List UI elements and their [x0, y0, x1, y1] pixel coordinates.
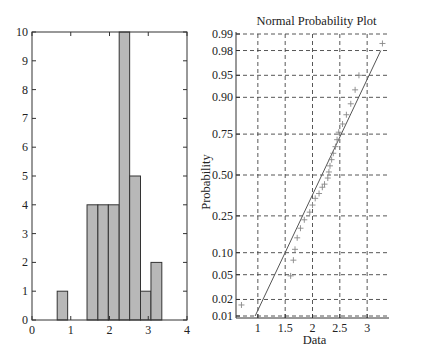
y-tick-label: 0.75 [212, 127, 233, 141]
x-tick-label: 0 [29, 323, 35, 337]
data-point-marker [288, 273, 294, 279]
data-point-marker [290, 257, 296, 263]
figure: 01234567891001234 Normal Probability Plo… [0, 0, 434, 362]
y-tick-label: 0.98 [212, 44, 233, 58]
y-tick-label: 5 [22, 169, 28, 183]
data-point-marker [326, 169, 332, 175]
y-tick-label: 9 [22, 54, 28, 68]
y-tick-label: 6 [22, 140, 28, 154]
y-tick-label: 3 [22, 227, 28, 241]
y-tick-label: 0.01 [212, 309, 233, 323]
y-tick-label: 0.99 [212, 27, 233, 41]
data-point-marker [325, 175, 331, 181]
y-tick-label: 2 [22, 255, 28, 269]
y-tick-label: 0.90 [212, 90, 233, 104]
histogram-bar [98, 205, 108, 320]
y-axis-title: Probability [199, 153, 213, 209]
y-tick-label: 0.05 [212, 268, 233, 282]
normal-probability-plot: Normal Probability Plot0.010.020.050.100… [199, 14, 389, 347]
data-point-marker [310, 202, 316, 208]
x-tick-label: 3 [364, 321, 370, 335]
y-tick-label: 7 [22, 111, 28, 125]
data-point-marker [292, 246, 298, 252]
y-tick-label: 0 [22, 313, 28, 327]
histogram-bar [130, 176, 141, 320]
y-tick-label: 10 [16, 25, 28, 39]
histogram-bar [108, 205, 119, 320]
y-tick-label: 1 [22, 284, 28, 298]
histogram-bar [151, 262, 162, 320]
histogram-bar [119, 32, 129, 320]
data-point-marker [379, 40, 385, 46]
y-tick-label: 0.10 [212, 246, 233, 260]
x-axis-title: Data [303, 333, 327, 347]
y-tick-label: 0.02 [212, 292, 233, 306]
data-point-marker [297, 225, 303, 231]
histogram-bar [57, 291, 67, 320]
x-tick-label: 2 [107, 323, 113, 337]
x-tick-label: 1 [255, 321, 261, 335]
y-tick-label: 8 [22, 83, 28, 97]
x-tick-label: 2.5 [332, 321, 347, 335]
x-tick-label: 1.5 [278, 321, 293, 335]
data-point-marker [327, 163, 333, 169]
y-tick-label: 0.50 [212, 168, 233, 182]
data-point-marker [294, 235, 300, 241]
data-point-marker [343, 112, 349, 118]
data-point-marker [332, 144, 338, 150]
y-tick-label: 4 [22, 198, 28, 212]
data-point-marker [329, 157, 335, 163]
y-tick-label: 0.95 [212, 68, 233, 82]
fit-line [255, 51, 381, 316]
x-tick-label: 1 [68, 323, 74, 337]
x-tick-label: 4 [184, 323, 190, 337]
histogram-chart: 01234567891001234 [16, 25, 190, 337]
data-point-marker [312, 195, 318, 201]
chart-title: Normal Probability Plot [256, 14, 377, 28]
data-point-marker [352, 87, 358, 93]
y-tick-label: 0.25 [212, 209, 233, 223]
x-tick-label: 3 [145, 323, 151, 337]
data-point-marker [356, 72, 362, 78]
data-point-marker [316, 191, 322, 197]
data-point-marker [307, 209, 313, 215]
data-point-marker [348, 101, 354, 107]
histogram-bar [87, 205, 98, 320]
data-point-marker [238, 302, 244, 308]
histogram-bar [141, 291, 151, 320]
